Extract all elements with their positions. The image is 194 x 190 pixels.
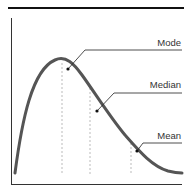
mean-dot [135,149,138,152]
mode-label: Mode [157,37,181,48]
distribution-diagram: Mode Median Mean [0,0,194,190]
mode-dot [66,67,69,70]
mean-leader-line [137,143,182,151]
density-curve [15,59,182,173]
mean-label: Mean [157,130,181,141]
median-dot [95,109,98,112]
median-leader-line [97,93,182,111]
mode-leader-line [68,50,182,69]
median-label: Median [150,79,181,90]
